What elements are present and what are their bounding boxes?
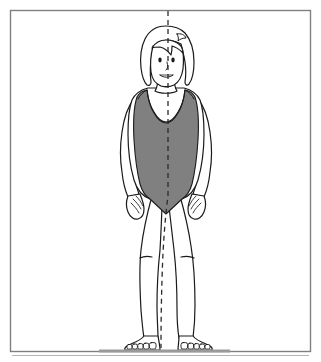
posture-illustration bbox=[0, 0, 321, 362]
left-eye bbox=[158, 58, 161, 63]
right-eye bbox=[171, 58, 174, 63]
illustration-panel: Standing female figure with vertical pos… bbox=[0, 0, 321, 362]
